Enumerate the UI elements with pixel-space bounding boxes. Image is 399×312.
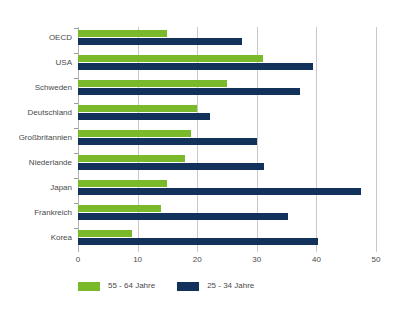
x-tick-label-20: 20 bbox=[193, 255, 202, 265]
bar-group bbox=[78, 127, 376, 152]
gridline-50 bbox=[376, 27, 377, 252]
legend-label: 25 - 34 Jahre bbox=[207, 281, 254, 291]
bar-group bbox=[78, 227, 376, 252]
bar-younger-korea bbox=[78, 238, 318, 245]
bar-group bbox=[78, 202, 376, 227]
bar-group bbox=[78, 27, 376, 52]
category-label-korea: Korea bbox=[0, 233, 72, 243]
category-tick bbox=[74, 153, 78, 154]
bar-younger-deutschland bbox=[78, 113, 210, 120]
bar-younger-großbritannien bbox=[78, 138, 257, 145]
category-label-schweden: Schweden bbox=[0, 83, 72, 93]
category-tick bbox=[74, 203, 78, 204]
bar-group bbox=[78, 102, 376, 127]
x-tick-label-50: 50 bbox=[372, 255, 381, 265]
category-tick bbox=[74, 103, 78, 104]
category-tick bbox=[74, 28, 78, 29]
bar-older-deutschland bbox=[78, 105, 197, 112]
category-label-großbritannien: Großbritannien bbox=[0, 133, 72, 143]
bar-older-usa bbox=[78, 55, 263, 62]
category-tick bbox=[74, 178, 78, 179]
bar-older-frankreich bbox=[78, 205, 161, 212]
category-label-frankreich: Frankreich bbox=[0, 208, 72, 218]
bar-older-niederlande bbox=[78, 155, 185, 162]
x-tick-label-30: 30 bbox=[252, 255, 261, 265]
category-label-niederlande: Niederlande bbox=[0, 158, 72, 168]
category-tick bbox=[74, 228, 78, 229]
bar-younger-schweden bbox=[78, 88, 300, 95]
bar-older-korea bbox=[78, 230, 132, 237]
bar-group bbox=[78, 177, 376, 202]
bar-younger-frankreich bbox=[78, 213, 288, 220]
chart-legend: 55 - 64 Jahre25 - 34 Jahre bbox=[78, 281, 254, 291]
legend-item-younger[interactable]: 25 - 34 Jahre bbox=[177, 281, 254, 291]
legend-swatch-icon bbox=[177, 282, 199, 291]
category-label-oecd: OECD bbox=[0, 33, 72, 43]
bar-older-japan bbox=[78, 180, 167, 187]
x-tick-label-0: 0 bbox=[76, 255, 80, 265]
bar-group bbox=[78, 77, 376, 102]
category-label-usa: USA bbox=[0, 58, 72, 68]
bar-older-großbritannien bbox=[78, 130, 191, 137]
bar-chart: OECDUSASchwedenDeutschlandGroßbritannien… bbox=[0, 0, 399, 312]
legend-item-older[interactable]: 55 - 64 Jahre bbox=[78, 281, 155, 291]
bar-younger-usa bbox=[78, 63, 313, 70]
category-label-japan: Japan bbox=[0, 183, 72, 193]
category-tick bbox=[74, 128, 78, 129]
bar-older-schweden bbox=[78, 80, 227, 87]
category-label-deutschland: Deutschland bbox=[0, 108, 72, 118]
bar-younger-oecd bbox=[78, 38, 242, 45]
bar-younger-japan bbox=[78, 188, 361, 195]
bar-older-oecd bbox=[78, 30, 167, 37]
category-tick bbox=[74, 53, 78, 54]
legend-swatch-icon bbox=[78, 282, 100, 291]
category-tick bbox=[74, 78, 78, 79]
bar-group bbox=[78, 52, 376, 77]
x-tick-label-10: 10 bbox=[133, 255, 142, 265]
bar-group bbox=[78, 152, 376, 177]
bar-younger-niederlande bbox=[78, 163, 264, 170]
legend-label: 55 - 64 Jahre bbox=[108, 281, 155, 291]
plot-area bbox=[78, 27, 376, 252]
x-tick-label-40: 40 bbox=[312, 255, 321, 265]
